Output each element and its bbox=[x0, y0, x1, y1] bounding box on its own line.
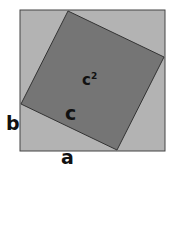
side-a-label: a bbox=[61, 148, 74, 167]
area-label: c2 bbox=[82, 72, 97, 88]
side-b-label: b bbox=[6, 114, 20, 133]
hypotenuse-label: c bbox=[65, 104, 76, 123]
